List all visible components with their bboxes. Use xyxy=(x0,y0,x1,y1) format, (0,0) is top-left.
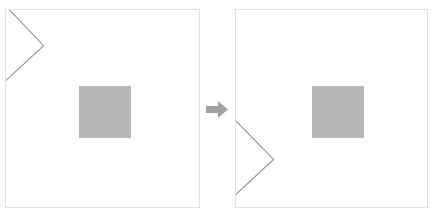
arrow-right-icon-path xyxy=(206,101,228,118)
filled-square-shape xyxy=(312,86,364,138)
filled-square-shape xyxy=(79,86,131,138)
arrow-right-icon xyxy=(206,100,228,119)
figure-canvas xyxy=(0,0,435,216)
panel-before xyxy=(5,9,200,208)
panel-after xyxy=(235,9,428,208)
chevron-outline-icon xyxy=(236,119,274,196)
transform-arrow xyxy=(206,100,228,119)
chevron-outline-icon xyxy=(6,10,44,82)
